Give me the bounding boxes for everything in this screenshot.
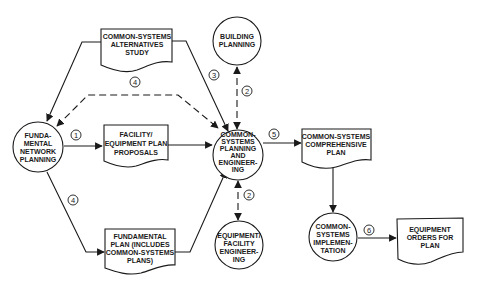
node-label: COMMON-	[221, 131, 257, 138]
svg-text:3: 3	[212, 71, 216, 80]
node-label: SYSTEMS	[316, 231, 350, 238]
node-label: ING	[232, 166, 245, 173]
node-equipment-orders: EQUIPMENT ORDERS FOR PLAN	[397, 218, 463, 264]
node-label: STUDY	[125, 49, 149, 56]
node-label: MENTAL	[24, 140, 53, 147]
svg-text:5: 5	[272, 130, 276, 139]
node-label: AND	[230, 152, 245, 159]
node-label: ENGINEER-	[219, 159, 259, 166]
node-label: ENGINEER-	[220, 248, 260, 255]
node-label: FACILITY	[223, 240, 254, 247]
node-label: PROPOSALS	[114, 149, 158, 156]
node-implementation: COMMON- SYSTEMS IMPLEMEN- TATION	[309, 213, 357, 261]
node-label: EQUIPMENT/	[217, 232, 261, 240]
node-equipment-facility-engineering: EQUIPMENT/ FACILITY ENGINEER- ING	[215, 221, 263, 269]
node-label: PLANNING	[220, 145, 257, 152]
node-label: EQUIPMENT	[409, 226, 451, 234]
step-badge-4-top: 4	[130, 77, 140, 87]
node-label: ALTERNATIVES	[111, 41, 164, 48]
svg-text:1: 1	[74, 131, 78, 140]
node-label: COMMON-SYSTEMS	[106, 249, 175, 256]
node-label: PLAN (INCLUDES	[110, 241, 169, 249]
step-badge-2-bottom: 2	[244, 190, 254, 200]
node-comprehensive-plan: COMMON-SYSTEMS COMPREHENSIVE PLAN	[302, 129, 371, 168]
step-badge-1: 1	[71, 130, 81, 140]
node-label: PLANS)	[127, 257, 153, 265]
svg-text:4: 4	[71, 196, 75, 205]
node-label: COMMON-SYSTEMS	[302, 133, 371, 140]
node-label: COMPREHENSIVE	[305, 141, 367, 148]
edge-dashed-4	[57, 95, 218, 128]
node-alternatives-study: COMMON-SYSTEMS ALTERNATIVES STUDY	[101, 29, 172, 72]
node-label: PLAN	[326, 149, 345, 156]
node-label: FACILITY/	[119, 131, 152, 138]
step-badge-2-top: 2	[242, 86, 252, 96]
step-badge-4-bottom: 4	[68, 195, 78, 205]
node-label: PLANNING	[219, 41, 256, 48]
node-label: PLAN	[420, 242, 439, 249]
node-fundamental-plan: FUNDAMENTAL PLAN (INCLUDES COMMON-SYSTEM…	[105, 229, 175, 274]
step-badge-6: 6	[364, 225, 374, 235]
node-label: IMPLEMEN-	[313, 239, 353, 246]
node-label: ING	[233, 256, 246, 263]
step-badge-5: 5	[269, 129, 279, 139]
node-label: BUILDING	[220, 33, 254, 40]
node-label: ORDERS FOR	[407, 234, 454, 241]
svg-text:6: 6	[367, 226, 371, 235]
svg-text:2: 2	[245, 87, 249, 96]
node-building-planning: BUILDING PLANNING	[213, 17, 261, 65]
node-label: FUNDAMENTAL	[113, 233, 167, 240]
node-fundamental-network-planning: FUNDA- MENTAL NETWORK PLANNING	[13, 122, 63, 172]
node-label: FUNDA-	[25, 132, 52, 139]
node-label: EQUIPMENT PLAN	[105, 140, 168, 148]
step-badge-3: 3	[209, 70, 219, 80]
node-label: COMMON-SYSTEMS	[103, 33, 172, 40]
flow-diagram: FUNDA- MENTAL NETWORK PLANNING COMMON-SY…	[0, 0, 478, 288]
node-common-systems-planning: COMMON- SYSTEMS PLANNING AND ENGINEER- I…	[213, 130, 263, 180]
edge-fundamental-to-plan	[47, 172, 104, 252]
node-label: COMMON-	[316, 223, 352, 230]
node-facility-equipment-proposals: FACILITY/ EQUIPMENT PLAN PROPOSALS	[104, 125, 168, 167]
node-label: PLANNING	[20, 156, 57, 163]
svg-text:2: 2	[247, 191, 251, 200]
node-label: TATION	[320, 247, 345, 254]
node-label: NETWORK	[20, 148, 56, 155]
svg-text:4: 4	[133, 78, 137, 87]
node-label: SYSTEMS	[221, 138, 255, 145]
